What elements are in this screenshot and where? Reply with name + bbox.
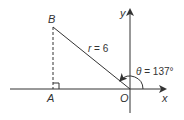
- radius-annotation: r = 6: [88, 43, 109, 54]
- polar-diagram: B A O x y r = 6 θ = 137°: [0, 0, 184, 120]
- angle-value: = 137°: [141, 66, 173, 77]
- point-label-B: B: [48, 13, 55, 25]
- angle-annotation: θ = 137°: [136, 66, 174, 77]
- point-label-A: A: [46, 92, 54, 104]
- axis-label-x: x: [161, 92, 168, 104]
- axis-label-y: y: [119, 7, 127, 19]
- radius-segment-OB: [53, 27, 130, 89]
- angle-arc-theta: [121, 76, 144, 89]
- right-angle-marker: [53, 83, 59, 89]
- radius-value: = 6: [91, 43, 108, 54]
- point-label-O: O: [120, 92, 129, 104]
